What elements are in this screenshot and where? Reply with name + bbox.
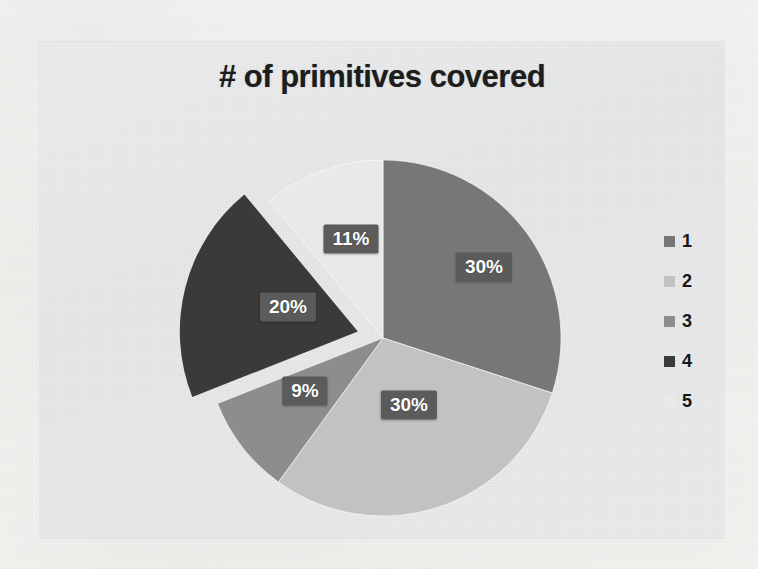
pie-svg — [40, 42, 724, 538]
legend-label-2: 2 — [682, 272, 692, 290]
legend-item-3[interactable]: 3 — [664, 312, 722, 330]
legend-swatch-icon-2 — [664, 276, 675, 287]
legend-item-2[interactable]: 2 — [664, 272, 722, 290]
pie-slice-group — [180, 160, 561, 516]
pie-data-label-5: 11% — [324, 225, 379, 254]
legend-swatch-icon-1 — [664, 236, 675, 247]
legend-swatch-icon-5 — [664, 396, 675, 407]
legend-swatch-icon-3 — [664, 316, 675, 327]
legend-item-4[interactable]: 4 — [664, 352, 722, 370]
pie-data-label-4: 20% — [260, 293, 316, 322]
legend-label-5: 5 — [682, 392, 692, 410]
legend-label-1: 1 — [682, 232, 692, 250]
pie-data-label-2: 30% — [381, 391, 437, 420]
legend-label-3: 3 — [682, 312, 692, 330]
pie-data-label-1: 30% — [456, 253, 512, 282]
pie-chart — [40, 42, 724, 538]
legend-item-5[interactable]: 5 — [664, 392, 722, 410]
legend-label-4: 4 — [682, 352, 692, 370]
legend-item-1[interactable]: 1 — [664, 232, 722, 250]
page-background: # of primitives covered 30%30%9%20%11% 1… — [0, 0, 758, 569]
legend-swatch-icon-4 — [664, 356, 675, 367]
chart-legend: 12345 — [664, 232, 722, 432]
pie-data-label-3: 9% — [282, 377, 327, 406]
